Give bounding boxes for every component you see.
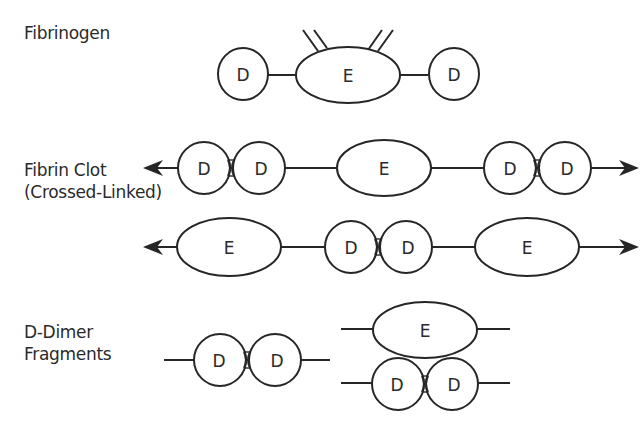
d-label: D: [254, 159, 267, 179]
diagram-canvas: Fibrinogen Fibrin Clot (Crossed-Linked) …: [0, 0, 644, 422]
d-label: D: [390, 375, 403, 395]
d-label: D: [401, 238, 414, 258]
label-fibrin-clot-line1: Fibrin Clot: [24, 159, 162, 181]
d-dimer-e-complex: E D D: [341, 302, 510, 410]
d-label: D: [212, 351, 225, 371]
label-fibrin-clot-line2: (Crossed-Linked): [24, 181, 162, 203]
label-d-dimer: D-Dimer Fragments: [24, 321, 111, 365]
d-label: D: [503, 159, 516, 179]
label-fibrin-clot: Fibrin Clot (Crossed-Linked): [24, 159, 162, 203]
label-d-dimer-line1: D-Dimer: [24, 321, 111, 343]
d-label: D: [236, 65, 249, 85]
d-label: D: [344, 238, 357, 258]
fibrinogen-molecule: D E D: [218, 30, 479, 103]
d-label: D: [447, 65, 460, 85]
label-d-dimer-line2: Fragments: [24, 343, 111, 365]
d-label: D: [447, 375, 460, 395]
fibrin-strand-2: E D D E: [143, 218, 639, 276]
d-label: D: [560, 159, 573, 179]
e-label: E: [379, 159, 390, 179]
label-fibrinogen-text: Fibrinogen: [24, 23, 110, 43]
e-label: E: [420, 321, 431, 341]
fibrin-strand-1: D D E D D: [143, 140, 639, 196]
fibrinopeptide-lines-right: [368, 30, 393, 51]
label-fibrinogen: Fibrinogen: [24, 22, 110, 44]
e-label: E: [343, 66, 354, 86]
d-label: D: [270, 351, 283, 371]
e-label: E: [522, 238, 533, 258]
fibrinopeptide-lines-left: [303, 30, 327, 51]
e-label: E: [224, 238, 235, 258]
d-dimer-free: D D: [164, 334, 330, 386]
d-label: D: [197, 159, 210, 179]
